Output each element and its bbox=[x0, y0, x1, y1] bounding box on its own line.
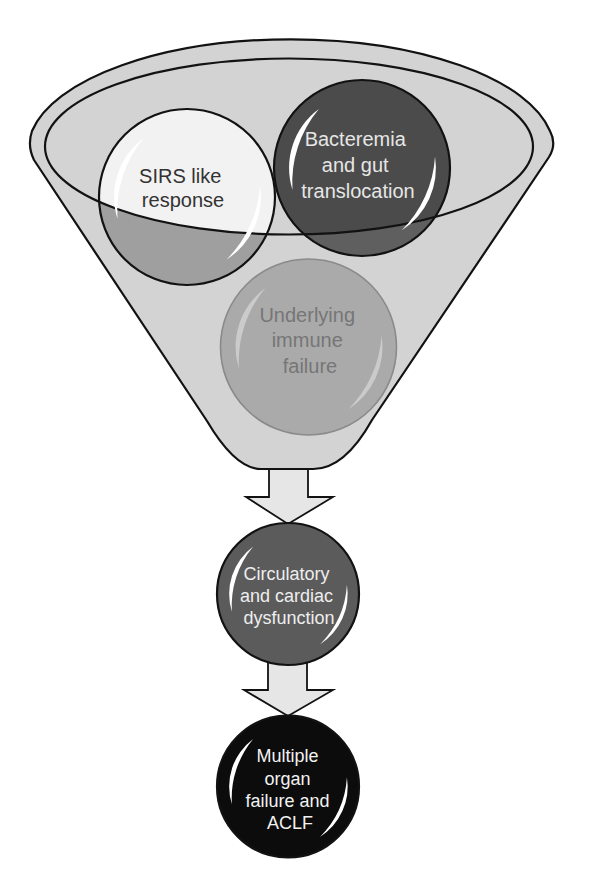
label-line: response bbox=[142, 189, 224, 211]
label-circulatory: Circulatory and cardiac dysfunction bbox=[240, 564, 338, 628]
down-arrow-1-icon bbox=[246, 466, 333, 524]
label-line: Circulatory bbox=[243, 564, 329, 584]
label-line: immune bbox=[272, 329, 343, 351]
label-line: and gut bbox=[322, 154, 389, 176]
label-line: organ bbox=[264, 769, 310, 789]
label-line: failure bbox=[283, 355, 337, 377]
label-line: translocation bbox=[301, 180, 414, 202]
down-arrow-2-icon bbox=[244, 660, 333, 716]
label-line: dysfunction bbox=[243, 608, 334, 628]
label-line: Underlying bbox=[259, 304, 355, 326]
label-line: ACLF bbox=[267, 813, 313, 833]
label-line: failure and bbox=[245, 791, 329, 811]
label-line: Multiple bbox=[256, 746, 318, 766]
pathogenesis-funnel-diagram: SIRS like response Bacteremia and gut tr… bbox=[0, 0, 589, 887]
label-line: and cardiac bbox=[240, 586, 333, 606]
label-line: SIRS like bbox=[139, 165, 221, 187]
label-line: Bacteremia bbox=[305, 128, 407, 150]
